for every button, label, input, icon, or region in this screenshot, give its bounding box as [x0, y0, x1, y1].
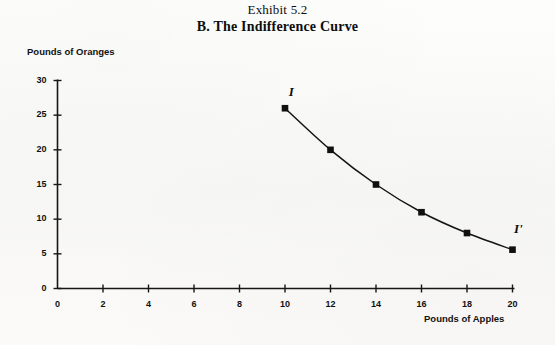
plot-area	[0, 0, 555, 345]
x-tick-label: 18	[456, 299, 478, 309]
data-point-markers	[282, 105, 516, 253]
curve-annotation: I	[289, 84, 294, 100]
y-tick-label: 20	[25, 144, 47, 154]
curve-annotation: I'	[514, 221, 523, 237]
x-tick-label: 12	[320, 299, 342, 309]
indifference-curve-line	[285, 108, 513, 249]
x-tick-label: 8	[229, 299, 251, 309]
data-point-marker	[282, 105, 289, 112]
axis-ticks	[54, 81, 513, 293]
y-tick-label: 15	[25, 179, 47, 189]
chart-figure: Exhibit 5.2 B. The Indifference Curve Po…	[0, 0, 555, 345]
y-tick-label: 10	[25, 213, 47, 223]
x-tick-label: 10	[274, 299, 296, 309]
x-tick-label: 20	[502, 299, 524, 309]
y-tick-label: 5	[25, 248, 47, 258]
data-point-marker	[464, 230, 471, 237]
series-line-I	[285, 108, 513, 249]
y-tick-label: 0	[25, 283, 47, 293]
data-point-marker	[509, 246, 516, 253]
x-tick-label: 14	[365, 299, 387, 309]
data-point-marker	[373, 181, 380, 188]
x-tick-label: 4	[138, 299, 160, 309]
x-tick-label: 6	[183, 299, 205, 309]
y-tick-label: 30	[25, 75, 47, 85]
x-tick-label: 2	[92, 299, 114, 309]
data-point-marker	[418, 209, 425, 216]
x-tick-label: 16	[411, 299, 433, 309]
x-tick-label: 0	[47, 299, 69, 309]
data-point-marker	[327, 147, 334, 154]
y-tick-label: 25	[25, 109, 47, 119]
